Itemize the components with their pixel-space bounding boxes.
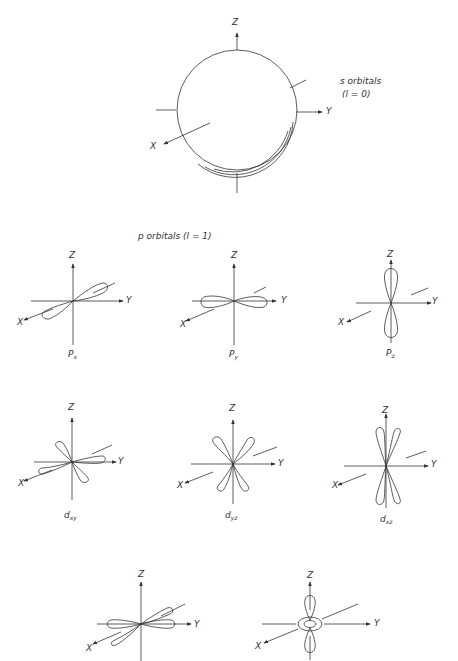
px-axis-x-label: X xyxy=(17,317,23,327)
py-axis-z-label: Z xyxy=(231,250,237,260)
py-axis-x-label: X xyxy=(180,319,186,329)
dx2y2-axis-z-label: Z xyxy=(138,569,144,579)
px-label: Px xyxy=(68,349,77,360)
dxz-axis-y-label: Y xyxy=(431,459,437,469)
py-axis-y-label: Y xyxy=(281,295,287,305)
pz-axis-z-label: Z xyxy=(387,249,393,259)
dyz-axis-z-label: Z xyxy=(229,403,235,413)
dxy-orbital xyxy=(24,418,116,500)
s-orbital xyxy=(156,33,322,193)
dyz-label: dyz xyxy=(225,510,237,521)
dz2-orbital xyxy=(262,582,370,660)
px-orbital xyxy=(24,264,123,345)
dx2y2-axis-x-label: X xyxy=(86,643,92,653)
dyz-axis-y-label: Y xyxy=(278,458,284,468)
dxy-label: dxy xyxy=(64,510,77,521)
pz-label: Pz xyxy=(386,348,395,359)
s-axis-z-label: Z xyxy=(232,17,238,27)
orbital-diagram xyxy=(0,0,458,661)
dxz-axis-x-label: X xyxy=(332,480,338,490)
dxy-axis-x-label: X xyxy=(18,478,24,488)
py-orbital xyxy=(186,264,276,345)
dxz-orbital xyxy=(338,414,428,508)
dz2-axis-x-label: X xyxy=(255,641,261,651)
dxy-axis-y-label: Y xyxy=(118,456,124,466)
s-axis-x-label: X xyxy=(150,141,156,151)
p-orbitals-title: p orbitals (l = 1) xyxy=(138,231,212,241)
dxz-label: dxz xyxy=(380,514,392,525)
px-axis-y-label: Y xyxy=(126,295,132,305)
dyz-orbital xyxy=(185,420,277,504)
s-orbitals-title: s orbitals xyxy=(340,76,381,86)
pz-axis-y-label: Y xyxy=(432,296,438,306)
dx2y2-axis-y-label: Y xyxy=(194,619,200,629)
pz-orbital xyxy=(347,260,431,343)
dz2-axis-z-label: Z xyxy=(307,570,313,580)
s-axis-y-label: Y xyxy=(326,106,332,116)
dx2y2-orbital xyxy=(93,582,191,661)
pz-axis-x-label: X xyxy=(338,317,344,327)
dz2-axis-y-label: Y xyxy=(374,618,380,628)
dyz-axis-x-label: X xyxy=(177,480,183,490)
py-label: Py xyxy=(229,349,238,360)
dxy-axis-z-label: Z xyxy=(68,402,74,412)
s-orbitals-quantum: (l = 0) xyxy=(342,89,371,99)
dxz-axis-z-label: Z xyxy=(382,405,388,415)
px-axis-z-label: Z xyxy=(69,250,75,260)
